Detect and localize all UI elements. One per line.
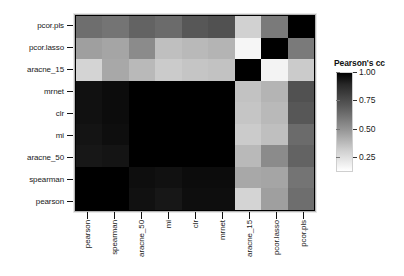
heatmap-cell <box>76 124 102 146</box>
legend-tick <box>336 72 340 73</box>
x-axis-label: pcor.pls <box>298 220 307 247</box>
y-axis-ticks <box>66 14 74 212</box>
heatmap-cell <box>102 59 128 81</box>
heatmap-cell <box>261 124 287 146</box>
x-axis-label: mrnet <box>217 220 226 240</box>
legend-tick-marks <box>336 72 353 172</box>
y-axis-label: pearson <box>0 190 66 212</box>
heatmap-cell <box>288 102 314 124</box>
x-axis-label: spearman <box>110 220 119 255</box>
y-tick <box>66 36 74 58</box>
heatmap-cell <box>208 188 234 210</box>
x-tick <box>235 212 262 220</box>
heatmap-cell <box>235 102 261 124</box>
y-tick <box>66 124 74 146</box>
heatmap-cell <box>76 102 102 124</box>
x-axis-label-slot: spearman <box>101 220 128 276</box>
heatmap-cell <box>261 16 287 38</box>
legend-tick <box>336 157 340 158</box>
x-axis-label: mi <box>164 220 173 228</box>
heatmap-cell <box>129 59 155 81</box>
y-tick <box>66 190 74 212</box>
x-tick <box>182 212 209 220</box>
heatmap-cell <box>102 38 128 60</box>
heatmap-cell <box>182 59 208 81</box>
heatmap-cell <box>261 38 287 60</box>
heatmap-figure: pcor.plspcor.lassoaracne_15mrnetclrmiara… <box>0 0 404 276</box>
heatmap-cell <box>235 124 261 146</box>
x-axis-label-slot: aracne_50 <box>128 220 155 276</box>
heatmap-cell <box>235 188 261 210</box>
heatmap-cell <box>235 81 261 103</box>
heatmap-cell <box>102 81 128 103</box>
heatmap-cell <box>288 188 314 210</box>
heatmap-cell <box>129 188 155 210</box>
heatmap-cell <box>235 59 261 81</box>
heatmap-cell <box>208 124 234 146</box>
heatmap-cell <box>208 81 234 103</box>
heatmap-cell <box>288 59 314 81</box>
heatmap-cell <box>261 102 287 124</box>
y-axis-label: spearman <box>0 168 66 190</box>
heatmap-cell <box>288 38 314 60</box>
heatmap-cell <box>76 38 102 60</box>
heatmap-cell <box>288 16 314 38</box>
heatmap-cell <box>129 38 155 60</box>
legend: Pearson's cc 1.000.750.500.25 <box>330 58 404 183</box>
heatmap-cell <box>235 16 261 38</box>
heatmap-cell <box>208 16 234 38</box>
heatmap-cell <box>182 38 208 60</box>
heatmap-cell <box>288 145 314 167</box>
heatmap-cell <box>102 145 128 167</box>
x-axis-label-slot: pcor.pls <box>289 220 316 276</box>
legend-tick <box>336 129 340 130</box>
heatmap-cell <box>102 188 128 210</box>
heatmap-cell <box>261 145 287 167</box>
x-axis-label: pearson <box>83 220 92 248</box>
x-axis-label: pcor.lasso <box>271 220 280 255</box>
heatmap-cell <box>102 124 128 146</box>
heatmap-cell <box>235 38 261 60</box>
heatmap-cell <box>208 102 234 124</box>
heatmap-grid <box>76 16 314 210</box>
y-axis-label: pcor.pls <box>0 14 66 36</box>
heatmap-cell <box>288 167 314 189</box>
heatmap-cell <box>155 167 181 189</box>
heatmap-cell <box>129 124 155 146</box>
heatmap-cell <box>129 167 155 189</box>
x-tick <box>155 212 182 220</box>
heatmap-cell <box>129 81 155 103</box>
x-tick <box>101 212 128 220</box>
heatmap-cell <box>261 59 287 81</box>
heatmap-cell <box>76 81 102 103</box>
legend-tick-label: 0.75 <box>359 95 376 105</box>
heatmap-cell <box>182 81 208 103</box>
heatmap-cell <box>155 145 181 167</box>
heatmap-cell <box>155 38 181 60</box>
y-tick <box>66 14 74 36</box>
heatmap-cell <box>261 188 287 210</box>
y-tick <box>66 80 74 102</box>
x-axis-label-slot: aracne_15 <box>235 220 262 276</box>
x-axis-label: clr <box>191 220 200 228</box>
heatmap-cell <box>182 188 208 210</box>
x-axis-label: aracne_50 <box>137 220 146 257</box>
x-axis-label: aracne_15 <box>244 220 253 257</box>
heatmap-cell <box>155 102 181 124</box>
x-axis-labels: pearsonspearmanaracne_50miclrmrnetaracne… <box>74 220 316 276</box>
y-axis-label: aracne_15 <box>0 58 66 80</box>
heatmap-cell <box>102 102 128 124</box>
x-axis-label-slot: pcor.lasso <box>262 220 289 276</box>
heatmap-cell <box>129 102 155 124</box>
heatmap-cell <box>182 167 208 189</box>
heatmap-cell <box>182 124 208 146</box>
x-axis-ticks <box>74 212 316 220</box>
heatmap-panel <box>74 14 316 212</box>
heatmap-cell <box>76 188 102 210</box>
x-axis-label-slot: clr <box>182 220 209 276</box>
heatmap-cell <box>129 16 155 38</box>
heatmap-cell <box>288 124 314 146</box>
heatmap-cell <box>76 145 102 167</box>
heatmap-cell <box>182 102 208 124</box>
x-tick <box>208 212 235 220</box>
